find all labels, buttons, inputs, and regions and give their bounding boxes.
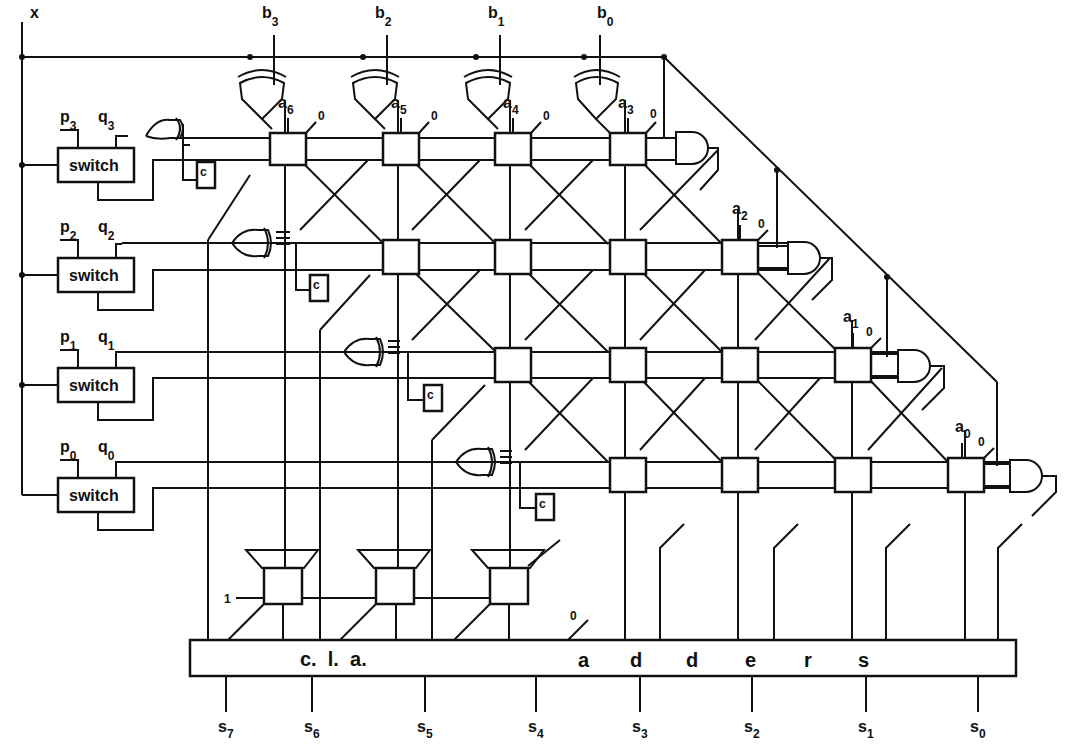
svg-text:c: c [313, 278, 320, 292]
constant-one: 1 [224, 592, 231, 606]
and-gate-row1 [898, 350, 930, 382]
svg-text:b1: b1 [488, 4, 505, 29]
svg-text:s3: s3 [632, 718, 648, 741]
svg-text:c: c [427, 388, 434, 402]
schematic-canvas: x b3 b2 b1 b0 [0, 0, 1068, 752]
svg-text:0: 0 [543, 109, 550, 123]
sum-outputs: s7 s6 s5 s4 s3 s2 s1 s0 [218, 676, 986, 741]
svg-text:e: e [745, 649, 756, 671]
svg-text:a0: a0 [955, 418, 971, 441]
cells [270, 133, 984, 492]
svg-text:q3: q3 [98, 108, 115, 133]
svg-text:s1: s1 [858, 718, 874, 741]
svg-text:a5: a5 [391, 94, 407, 117]
svg-text:s5: s5 [417, 718, 433, 741]
svg-text:a6: a6 [278, 94, 294, 117]
svg-text:switch: switch [69, 487, 119, 504]
svg-text:0: 0 [978, 435, 985, 449]
cell-r3-c3 [610, 133, 646, 165]
and-gate-row2 [788, 242, 820, 274]
svg-text:a4: a4 [503, 94, 519, 117]
cell-r1-c2 [722, 348, 758, 382]
svg-text:b3: b3 [262, 4, 279, 29]
svg-text:b0: b0 [597, 4, 614, 29]
svg-text:r: r [804, 649, 812, 671]
switch-blocks: switch p3 q3 switch p2 q2 switch p1 q1 [58, 108, 210, 530]
cell-r1-c3 [610, 348, 646, 382]
cell-r3-c6 [270, 133, 306, 165]
svg-text:d: d [630, 649, 642, 671]
and-gate-row0 [1010, 460, 1042, 492]
svg-text:0: 0 [866, 325, 873, 339]
svg-text:a: a [578, 649, 590, 671]
cell-r2-c4 [495, 240, 531, 274]
svg-text:a3: a3 [618, 94, 634, 117]
svg-text:s6: s6 [304, 718, 320, 741]
cell-r2-c3 [610, 240, 646, 274]
bottom-cell-2 [490, 568, 528, 604]
svg-text:switch: switch [69, 157, 119, 174]
svg-text:s: s [858, 649, 869, 671]
row-buses [122, 138, 1010, 488]
cell-r2-c2 [722, 240, 758, 274]
svg-text:c: c [539, 497, 546, 511]
svg-text:s0: s0 [970, 718, 986, 741]
b-labels: b3 b2 b1 b0 [262, 4, 614, 29]
svg-text:c: c [200, 165, 207, 179]
bottom-cell-0 [264, 568, 302, 604]
svg-text:q0: q0 [98, 438, 115, 463]
svg-text:d: d [686, 649, 698, 671]
cell-r0-c1 [835, 458, 871, 492]
b-input-xor-gates [238, 35, 620, 133]
and-gate-row3 [676, 132, 708, 164]
svg-text:s7: s7 [218, 718, 234, 741]
constant-zero: 0 [570, 609, 577, 623]
cell-r1-c4 [495, 348, 531, 382]
cell-r3-c5 [383, 133, 419, 165]
svg-text:s2: s2 [744, 718, 760, 741]
cell-r3-c4 [495, 133, 531, 165]
bottom-cell-1 [376, 568, 414, 604]
svg-text:0: 0 [431, 109, 438, 123]
svg-text:switch: switch [69, 377, 119, 394]
svg-text:a1: a1 [843, 308, 859, 331]
svg-text:s4: s4 [528, 718, 544, 741]
svg-text:0: 0 [650, 107, 657, 121]
svg-text:0: 0 [318, 109, 325, 123]
cla-label: c. l. a. [300, 648, 367, 670]
cell-r2-c5 [383, 240, 419, 274]
cell-r0-c3 [610, 458, 646, 492]
x-label: x [30, 4, 39, 21]
circuit-diagram: x b3 b2 b1 b0 [0, 0, 1068, 752]
svg-text:q1: q1 [98, 328, 115, 353]
cell-r0-c2 [722, 458, 758, 492]
svg-text:0: 0 [758, 217, 765, 231]
cell-r0-c0 [948, 458, 984, 492]
svg-text:switch: switch [69, 267, 119, 284]
svg-text:q2: q2 [98, 218, 115, 243]
svg-text:b2: b2 [375, 4, 392, 29]
cell-r1-c1 [835, 348, 871, 382]
diagonal-lattice [208, 150, 948, 640]
svg-text:a2: a2 [732, 200, 748, 223]
